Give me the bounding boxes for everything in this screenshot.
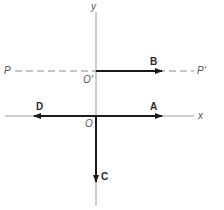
o-prime-label: O': [83, 74, 94, 85]
p-label: P: [4, 65, 11, 76]
x-axis-label: x: [197, 110, 204, 121]
vector-diagram: y x O P P' O' B A D C: [0, 0, 224, 210]
vector-b-label: B: [150, 56, 157, 67]
p-prime-label: P': [197, 65, 207, 76]
vector-a-label: A: [150, 101, 157, 112]
origin-label: O: [85, 118, 93, 129]
y-axis-label: y: [90, 1, 97, 12]
vector-c-label: C: [101, 171, 108, 182]
diagram-svg: y x O P P' O' B A D C: [0, 0, 224, 210]
vector-d-label: D: [36, 101, 43, 112]
